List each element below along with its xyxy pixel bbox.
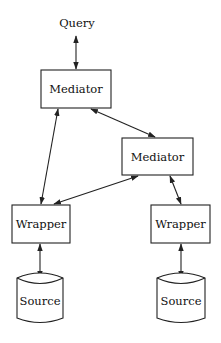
query-label: Query [59,16,95,30]
wrapper-right-node: Wrapper [151,205,210,243]
source-left-label: Source [20,294,61,308]
mediator-right-node: Mediator [122,138,193,175]
mediator-right-label: Mediator [131,150,185,164]
edge-mediator-right-wrapper-right [170,176,181,204]
wrapper-right-label: Wrapper [155,217,206,231]
mediator-top-node: Mediator [41,70,111,108]
edge-mediator-top-mediator-right [91,109,155,137]
edge-mediator-top-wrapper-left [41,109,58,204]
wrapper-left-node: Wrapper [12,205,70,243]
edge-mediator-right-wrapper-left [54,176,138,204]
mediator-top-label: Mediator [49,82,103,96]
source-left-node: Source [17,273,63,323]
mediator-architecture-diagram: Query Mediator Mediator Wrapper Wrapper … [0,0,221,343]
source-right-node: Source [157,273,205,323]
source-right-label: Source [161,294,202,308]
wrapper-left-label: Wrapper [16,217,67,231]
